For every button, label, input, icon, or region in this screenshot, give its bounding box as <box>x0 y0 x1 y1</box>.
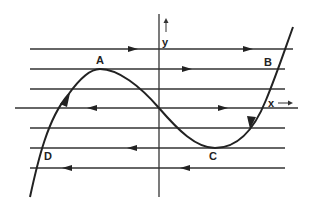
horizontal-line-2 <box>30 66 285 72</box>
left-arrow-icon <box>62 165 72 171</box>
point-label-a: A <box>96 54 104 66</box>
y-axis-label: y <box>162 36 169 48</box>
right-arrow-icon <box>243 46 253 52</box>
y-axis-arrow-icon <box>164 18 169 32</box>
right-arrow-icon <box>128 46 138 52</box>
left-arrow-icon <box>87 105 97 111</box>
horizontal-line-7 <box>30 165 285 171</box>
horizontal-line-6 <box>30 145 285 151</box>
point-label-b: B <box>264 56 272 68</box>
cubic-curve <box>30 27 293 197</box>
right-arrow-icon <box>182 66 192 72</box>
point-label-d: D <box>44 150 52 162</box>
x-axis-arrow-icon <box>278 101 293 106</box>
right-arrow-icon <box>218 105 228 111</box>
left-arrow-icon <box>127 145 137 151</box>
point-label-c: C <box>209 150 217 162</box>
left-arrow-icon <box>180 165 190 171</box>
phase-diagram: y x A B C D <box>0 0 311 213</box>
x-axis-label: x <box>268 97 275 109</box>
